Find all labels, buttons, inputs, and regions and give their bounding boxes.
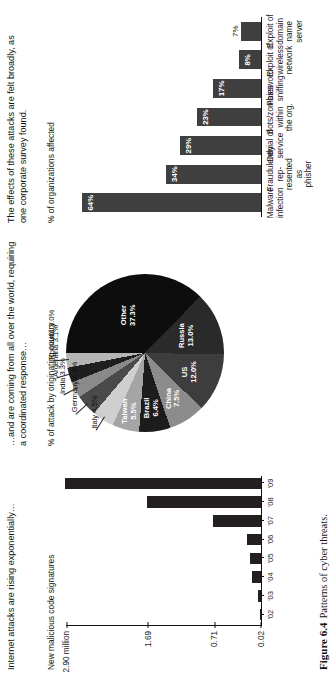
chart-3-bar-value: 17% — [217, 81, 226, 97]
panel-3-note: The effects of these attacks are felt br… — [6, 18, 29, 223]
chart-1-y-tick: 0.71 — [210, 631, 219, 647]
pie-slice-label: Other37.3% — [120, 293, 137, 337]
pie-slice-label: Italy 4.5% — [91, 395, 100, 428]
chart-1-x-tick: '03 — [266, 591, 275, 601]
chart-3-bar-value: 7% — [231, 26, 240, 37]
chart-1-plot-area: '02'03'04'05'06'07'08'090.020.711.692.90… — [66, 476, 262, 626]
chart-3-bar-value: 29% — [184, 138, 193, 154]
chart-1-bar — [65, 478, 261, 490]
chart-3-x-axis — [261, 17, 262, 217]
panel-1-note: Internet attacks are rising exponentiall… — [6, 465, 18, 670]
pie-slice-label: Brazil6.4% — [143, 386, 160, 430]
chart-3-bar-value: 34% — [170, 166, 179, 182]
pie-slice-label: China7.5% — [165, 376, 182, 420]
panel-malicious-code-signatures: Internet attacks are rising exponentiall… — [0, 460, 333, 670]
chart-1-bar — [250, 553, 261, 565]
chart-1-x-axis — [261, 476, 262, 626]
chart-1-bar — [258, 590, 261, 602]
chart-3-bar-value: 64% — [86, 195, 95, 211]
figure-number: Figure 6.4 — [317, 623, 329, 670]
chart-1-bar — [252, 571, 261, 583]
chart-1-x-tick: '02 — [266, 610, 275, 620]
chart-1-x-tick: '05 — [266, 553, 275, 563]
chart-1-bar — [260, 609, 262, 621]
panel-effects-on-organizations: The effects of these attacks are felt br… — [0, 8, 333, 223]
pie-slice-label: Romania 3.0% — [48, 310, 57, 360]
chart-1-y-axis — [66, 625, 262, 626]
chart-1-y-tick: 0.02 — [256, 631, 265, 647]
chart-1-x-tick: '09 — [266, 478, 275, 488]
figure-caption-text: Patterns of cyber threats. — [318, 514, 329, 618]
chart-1-bar — [147, 496, 261, 508]
chart-1-x-tick: '06 — [266, 535, 275, 545]
pie-slice-label: US12.0% — [181, 350, 198, 394]
figure-caption: Figure 6.4 Patterns of cyber threats. — [313, 370, 331, 670]
chart-3-category-label: Exploit of domainname server — [266, 14, 304, 49]
panel-1-axis-title: New malicious code signatures — [46, 555, 56, 670]
chart-3-bar — [241, 22, 261, 41]
chart-3-bar-value: 8% — [243, 54, 252, 65]
chart-3-bar — [82, 193, 261, 212]
chart-1-y-tick: 1.69 — [143, 631, 152, 647]
figure-canvas: Internet attacks are rising exponentiall… — [0, 0, 333, 678]
chart-1-bar — [247, 534, 261, 546]
chart-3-bar-value: 23% — [201, 109, 210, 125]
chart-1-bar — [213, 515, 261, 527]
panel-3-axis-title: % of organizations affected — [46, 122, 56, 223]
panel-attack-origin-countries: …and are coming from all over the world,… — [0, 236, 333, 446]
chart-1-x-tick: '07 — [266, 516, 275, 526]
chart-1-x-tick: '04 — [266, 572, 275, 582]
panel-2-note: …and are coming from all over the world,… — [6, 241, 29, 446]
chart-1-y-tick: 2.90 million — [62, 631, 71, 672]
pie-slice-label: Taiwan5.5% — [121, 389, 138, 433]
chart-1-x-tick: '08 — [266, 497, 275, 507]
chart-2-plot-area: Other37.3%Russia13.0%US12.0%China7.5%Bra… — [62, 242, 262, 438]
chart-3-bar — [166, 165, 261, 184]
chart-3-plot-area: 64%Malware infection34%Fraudulently rep-… — [66, 17, 262, 217]
